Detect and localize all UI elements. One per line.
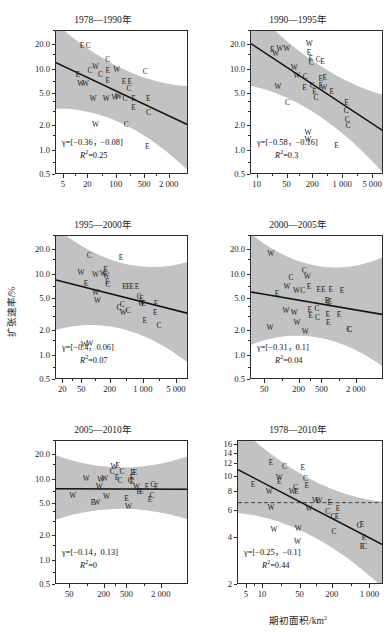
y-axis-tick (52, 584, 56, 585)
r-squared-annotation: R2=0.44 (262, 559, 290, 570)
plot-area: WEWWWEECCEWWCEEWECEWEECCECCCWWEγ=[−0.58，… (250, 30, 383, 174)
x-axis-tick-label: 500 (138, 179, 151, 189)
y-axis-tick-label: 0.5 (39, 374, 50, 384)
y-axis-minor-tick (248, 30, 250, 31)
y-axis-minor-tick (53, 491, 55, 492)
plot-area: WECCEEEEWWWCCEWWECEEEWWECEEWWγ=[−0.14，0.… (55, 440, 188, 584)
y-axis-tick (52, 69, 56, 70)
y-axis-tick-label: 1.0 (39, 350, 50, 360)
x-axis-label-text: 期初面积/km (269, 616, 324, 626)
panel-6: 1978—2010年ECEWECEEWWCEWWEWWCECEWWCCEWEEC… (205, 422, 391, 614)
y-axis-minor-tick (248, 259, 250, 260)
panel-title: 1978—2010年 (205, 422, 391, 436)
plot-area: WCCWWEWCEEEEEECEWWECECEEWWEWCCγ=[−0.31，0… (250, 235, 383, 379)
x-axis-tick (356, 379, 357, 383)
y-axis-tick-label: 5.0 (39, 88, 50, 98)
panel-title: 1995—2000年 (10, 217, 196, 231)
y-axis-tick (52, 274, 56, 275)
gamma-annotation: γ=[−0.58，−0.16] (257, 135, 318, 147)
y-axis-minor-tick (53, 545, 55, 546)
y-axis-minor-tick (53, 162, 55, 163)
y-axis-minor-tick (248, 135, 250, 136)
panel-3: 1995—2000年CEWWWEWEECEEEEWCEWWECCEWCEECWW… (10, 217, 196, 409)
y-axis-minor-tick (248, 101, 250, 102)
y-axis-tick (52, 93, 56, 94)
y-axis-tick-label: 16 (223, 439, 232, 449)
x-axis-tick-label: 50 (260, 384, 269, 394)
y-axis-tick-label: 10.0 (230, 269, 245, 279)
panel-title: 2005—2010年 (10, 422, 196, 436)
x-axis-tick-label: 50 (282, 179, 291, 189)
x-axis-label: 期初面积/km2 (205, 613, 391, 627)
y-axis-tick-label: 2.0 (234, 325, 245, 335)
y-axis-tick-label: 5.0 (234, 293, 245, 303)
x-axis-tick (169, 174, 170, 178)
panel-title: 1978—1990年 (10, 12, 196, 26)
y-axis-tick (234, 510, 238, 511)
x-axis-tick (262, 584, 263, 588)
r-squared-annotation: R2=0.3 (275, 149, 298, 160)
gamma-annotation: γ=[−0.4，0.06] (62, 340, 114, 352)
x-axis-tick-label: 50 (77, 384, 86, 394)
x-axis-tick-label: 5 000 (362, 179, 381, 189)
x-axis-minor-tick (144, 584, 145, 586)
x-axis-minor-tick (87, 584, 88, 586)
panel-5: 2005—2010年WECCEEEEWWWCCEWWECEEEWWECEEWWγ… (10, 422, 196, 614)
y-axis-tick (247, 150, 251, 151)
fit-graphics (56, 31, 188, 174)
x-axis-minor-tick (299, 174, 300, 176)
x-axis-tick (161, 584, 162, 588)
y-axis-minor-tick (53, 286, 55, 287)
y-axis-tick-label: 10.0 (35, 64, 50, 74)
x-axis-tick-label: 1 000 (360, 589, 379, 599)
y-axis-tick (234, 491, 238, 492)
x-axis-minor-tick (130, 174, 131, 176)
plot-area: CEWWWEWEECEEEEWCEWWECCEWCEECWWγ=[−0.4，0.… (55, 235, 188, 379)
y-axis-tick (234, 537, 238, 538)
y-axis-tick (52, 44, 56, 45)
x-axis-minor-tick (316, 584, 317, 586)
x-axis-tick-label: 100 (109, 179, 122, 189)
x-axis-tick-label: 5 (244, 589, 248, 599)
confidence-band (238, 441, 383, 584)
x-axis-tick-label: 2 000 (151, 589, 170, 599)
x-axis-tick-label: 10 (258, 589, 267, 599)
y-axis-tick (234, 463, 238, 464)
x-axis-tick-label: 2 000 (346, 384, 365, 394)
y-axis-tick (247, 174, 251, 175)
x-axis-minor-tick (272, 174, 273, 176)
panel-4: 2000—2005年WCCWWEWCEEEEEECEWWECECEEWWEWCC… (205, 217, 391, 409)
y-axis-tick-label: 5.0 (39, 498, 50, 508)
x-axis-tick-label: 200 (103, 384, 116, 394)
x-axis-minor-tick (102, 174, 103, 176)
confidence-band (56, 455, 188, 520)
x-axis-tick (300, 584, 301, 588)
gamma-annotation: γ=[−0.25，−0.1] (244, 545, 301, 557)
y-axis-tick (52, 150, 56, 151)
fit-graphics (56, 236, 188, 379)
y-axis-tick-label: 0.5 (234, 169, 245, 179)
y-axis-minor-tick (53, 111, 55, 112)
x-axis-minor-tick (75, 174, 76, 176)
y-axis-tick-label: 20.0 (35, 39, 50, 49)
y-axis-minor-tick (248, 340, 250, 341)
x-axis-tick (116, 174, 117, 178)
y-axis-tick (247, 330, 251, 331)
confidence-band (251, 31, 383, 174)
y-axis-tick (52, 479, 56, 480)
y-axis-tick-label: 20.0 (230, 244, 245, 254)
y-axis-minor-tick (248, 162, 250, 163)
y-axis-minor-tick (53, 316, 55, 317)
plot-area: ECCWEWCECCEEEWWCWWWWCEEECCWEγ=[−0.36，−0.… (55, 30, 188, 174)
x-axis-tick-label: 1 000 (133, 384, 152, 394)
x-axis-minor-tick (357, 174, 358, 176)
x-axis-tick-label: 2 000 (159, 179, 178, 189)
y-axis-tick (52, 503, 56, 504)
y-axis-tick-label: 10.0 (35, 269, 50, 279)
y-axis-tick (247, 298, 251, 299)
y-axis-minor-tick (248, 54, 250, 55)
y-axis-minor-tick (53, 259, 55, 260)
x-axis-tick (342, 174, 343, 178)
y-axis-tick (247, 249, 251, 250)
y-axis-tick (52, 125, 56, 126)
